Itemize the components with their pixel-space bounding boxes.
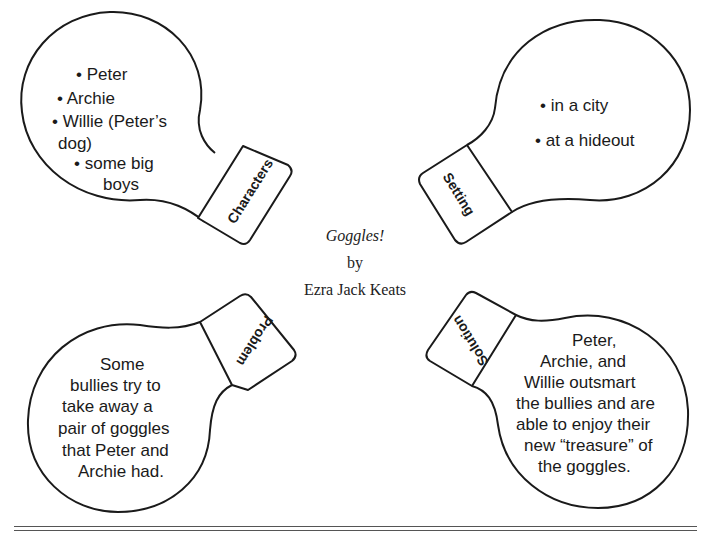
setting-item: • in a city (540, 95, 608, 117)
characters-item: • Archie (57, 88, 115, 110)
problem-line: bullies try to (70, 375, 161, 397)
characters-item: boys (103, 174, 139, 196)
book-title: Goggles! (255, 222, 455, 249)
by-text: by (255, 249, 455, 276)
bottom-rule-top (14, 526, 697, 527)
solution-line: Archie, and (540, 351, 626, 373)
characters-item: dog) (58, 133, 92, 155)
solution-line: Peter, (572, 330, 616, 352)
solution-line: the goggles. (538, 456, 631, 478)
book-title-block: Goggles! by Ezra Jack Keats (255, 222, 455, 303)
author-name: Ezra Jack Keats (255, 276, 455, 303)
problem-line: Archie had. (78, 461, 164, 483)
characters-item: • Peter (76, 64, 127, 86)
problem-line: pair of goggles (58, 418, 170, 440)
solution-line: new “treasure” of (524, 435, 653, 457)
story-map-diagram: • Peter • Archie • Willie (Peter’s dog) … (0, 0, 711, 534)
solution-line: Willie outsmart (524, 372, 635, 394)
solution-line: able to enjoy their (516, 414, 650, 436)
problem-line: that Peter and (62, 440, 169, 462)
problem-line: Some (100, 354, 144, 376)
solution-line: the bullies and are (516, 393, 655, 415)
setting-item: • at a hideout (535, 130, 635, 152)
bottom-rule-bottom (14, 530, 697, 531)
characters-item: • Willie (Peter’s (52, 111, 167, 133)
problem-line: take away a (62, 396, 153, 418)
characters-item: • some big (74, 153, 154, 175)
